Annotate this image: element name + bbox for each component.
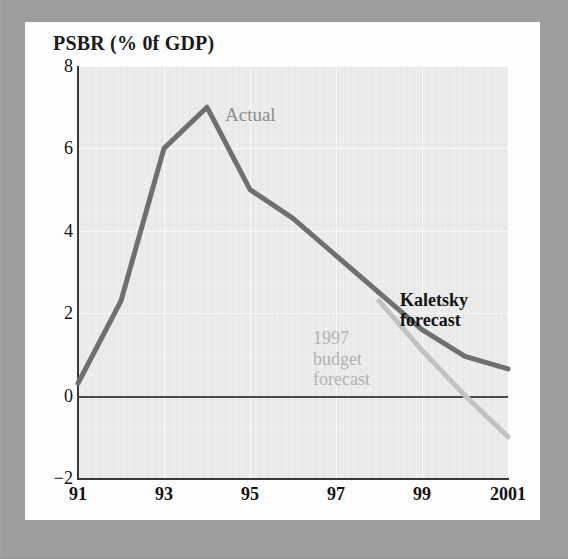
- annotation-kaletsky-forecast: Kaletsky forecast: [400, 290, 468, 330]
- series-layer: [25, 22, 540, 520]
- annotation-1997-budget-forecast: 1997 budget forecast: [313, 328, 370, 390]
- figure-root: PSBR (% 0f GDP) 86420−2 91939597992001 A…: [0, 0, 568, 559]
- annotation-actual: Actual: [225, 104, 276, 126]
- chart-card: PSBR (% 0f GDP) 86420−2 91939597992001 A…: [25, 22, 540, 520]
